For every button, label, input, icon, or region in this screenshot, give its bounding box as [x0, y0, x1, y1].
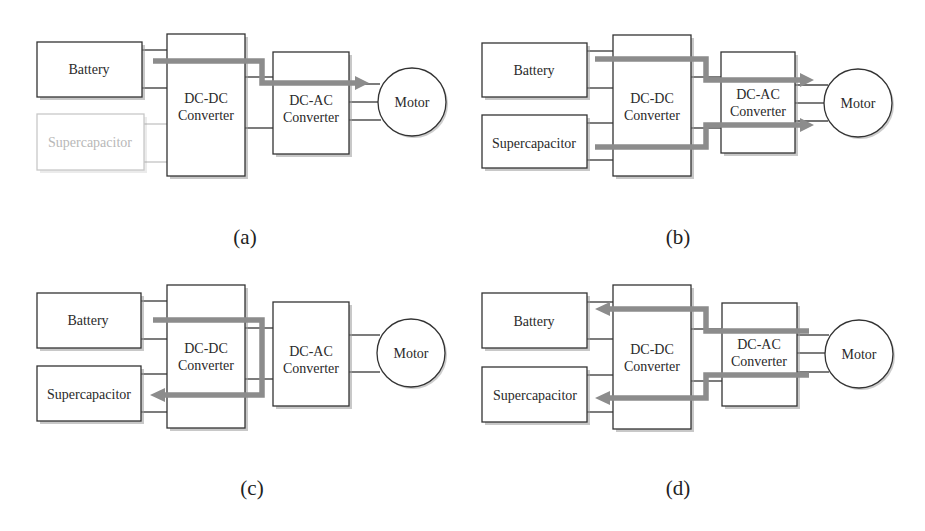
dcac-label-line2: Converter — [731, 354, 787, 369]
dcac-label-line1: DC-AC — [737, 337, 781, 352]
dcdc-label-line2: Converter — [178, 108, 234, 123]
panel-c: Battery Supercapacitor DC-DC Converter D… — [37, 285, 447, 500]
panel-a: Battery Supercapacitor DC-DC Converter D… — [37, 34, 448, 249]
supercapacitor-label: Supercapacitor — [48, 135, 132, 150]
battery-block: Battery — [37, 293, 144, 351]
motor-block: Motor — [824, 69, 894, 139]
dcdc-label-line2: Converter — [624, 108, 680, 123]
motor-block: Motor — [825, 320, 895, 390]
motor-label: Motor — [842, 347, 877, 362]
dcdc-label-line1: DC-DC — [184, 91, 228, 106]
dcdc-label-line1: DC-DC — [630, 342, 674, 357]
battery-label: Battery — [513, 63, 554, 78]
battery-block: Battery — [482, 293, 590, 351]
supercapacitor-label: Supercapacitor — [492, 136, 576, 151]
battery-label: Battery — [67, 313, 108, 328]
supercapacitor-block: Supercapacitor — [482, 115, 590, 171]
caption-c: (c) — [240, 476, 263, 500]
motor-label: Motor — [395, 95, 430, 110]
battery-label: Battery — [513, 314, 554, 329]
supercapacitor-label: Supercapacitor — [493, 388, 577, 403]
dcdc-label-line2: Converter — [178, 358, 234, 373]
caption-a: (a) — [233, 225, 256, 249]
dcac-converter-block: DC-AC Converter — [722, 303, 800, 409]
dcac-label-line1: DC-AC — [289, 93, 333, 108]
dcac-label-line2: Converter — [283, 361, 339, 376]
dcdc-converter-block: DC-DC Converter — [167, 34, 248, 179]
dcac-label-line2: Converter — [730, 104, 786, 119]
battery-label: Battery — [68, 62, 109, 77]
supercapacitor-block: Supercapacitor — [482, 367, 590, 425]
motor-block: Motor — [377, 319, 447, 389]
motor-label: Motor — [841, 96, 876, 111]
caption-d: (d) — [666, 476, 691, 500]
dcdc-label-line1: DC-DC — [630, 91, 674, 106]
dcac-label-line1: DC-AC — [289, 344, 333, 359]
dcac-converter-block: DC-AC Converter — [273, 302, 352, 409]
supercapacitor-block: Supercapacitor — [37, 366, 144, 424]
dcac-label-line2: Converter — [283, 110, 339, 125]
dcdc-converter-block: DC-DC Converter — [167, 285, 248, 431]
battery-block: Battery — [482, 43, 590, 100]
dcdc-label-line1: DC-DC — [184, 341, 228, 356]
dcdc-label-line2: Converter — [624, 359, 680, 374]
dcac-converter-block: DC-AC Converter — [273, 52, 352, 157]
dcac-label-line1: DC-AC — [736, 87, 780, 102]
motor-block: Motor — [378, 68, 448, 138]
power-flow-figure: Battery Supercapacitor DC-DC Converter D… — [0, 0, 925, 531]
supercapacitor-block-inactive: Supercapacitor — [37, 114, 147, 173]
motor-label: Motor — [394, 346, 429, 361]
caption-b: (b) — [666, 225, 691, 249]
panel-d: Battery Supercapacitor DC-DC Converter D… — [482, 285, 895, 500]
supercapacitor-label: Supercapacitor — [47, 387, 131, 402]
battery-block: Battery — [37, 42, 145, 100]
dcac-converter-block: DC-AC Converter — [721, 52, 798, 156]
panel-b: Battery Supercapacitor DC-DC Converter D… — [482, 35, 894, 249]
